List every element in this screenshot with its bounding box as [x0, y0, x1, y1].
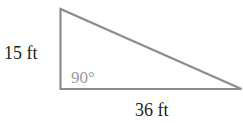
horizontal-side-label: 36 ft	[135, 100, 169, 120]
right-triangle-diagram: 15 ft 36 ft 90°	[0, 0, 243, 123]
vertical-side-label: 15 ft	[4, 43, 38, 63]
right-angle-label: 90°	[71, 68, 95, 87]
